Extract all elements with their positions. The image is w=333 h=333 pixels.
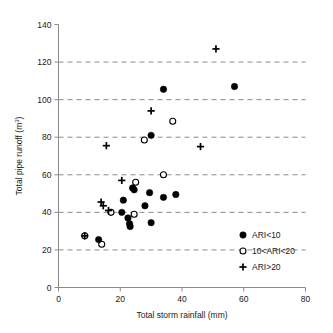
data-point-plus — [212, 45, 219, 52]
y-tick-label: 120 — [37, 57, 51, 67]
legend-label-1: 10<ARI<20 — [252, 246, 295, 256]
data-point-plus — [103, 142, 110, 149]
data-point-filled-circle — [231, 83, 237, 89]
legend-marker-filled-circle — [240, 232, 246, 238]
x-tick-label: 60 — [239, 294, 249, 304]
data-point-open-circle — [170, 118, 176, 124]
legend-item-2[interactable]: ARI>20 — [239, 262, 280, 272]
data-point-filled-circle — [142, 203, 148, 209]
legend-label-2: ARI>20 — [252, 262, 281, 272]
legend-label-0: ARI<10 — [252, 230, 281, 240]
data-point-filled-circle — [173, 191, 179, 197]
y-tick-label: 100 — [37, 95, 51, 105]
y-axis-title-suffix: ) — [14, 116, 24, 119]
legend-item-0[interactable]: ARI<10 — [240, 230, 281, 240]
data-point-filled-circle — [120, 197, 126, 203]
x-tick-label: 40 — [177, 294, 187, 304]
legend-item-1[interactable]: 10<ARI<20 — [240, 246, 295, 256]
data-point-plus — [197, 143, 204, 150]
data-point-plus — [118, 177, 125, 184]
series-plus — [81, 45, 219, 239]
y-tick-label: 20 — [42, 245, 52, 255]
data-point-open-circle — [160, 172, 166, 178]
series-filled-circle — [95, 83, 237, 243]
chart-legend: ARI<1010<ARI<20ARI>20 — [239, 230, 295, 272]
y-tick-label: 140 — [37, 20, 51, 30]
chart-canvas: 020406080100120140020406080Total storm r… — [0, 0, 333, 333]
x-tick-label: 80 — [301, 294, 311, 304]
data-point-open-circle — [133, 179, 139, 185]
y-tick-label: 80 — [42, 132, 52, 142]
y-axis-title-text: Total pipe runoff (m3) — [14, 116, 24, 195]
scatter-chart-figure: 020406080100120140020406080Total storm r… — [0, 0, 333, 333]
data-point-filled-circle — [160, 86, 166, 92]
data-point-filled-circle — [119, 209, 125, 215]
data-point-filled-circle — [127, 223, 133, 229]
x-tick-label: 0 — [56, 294, 61, 304]
data-point-filled-circle — [160, 194, 166, 200]
data-point-filled-circle — [95, 236, 101, 242]
y-axis-title: Total pipe runoff (m3) — [14, 116, 24, 195]
y-axis-title-main: Total pipe runoff (m — [14, 123, 24, 196]
data-point-filled-circle — [131, 187, 137, 193]
y-tick-label: 0 — [47, 283, 52, 293]
data-point-plus — [148, 107, 155, 114]
data-point-open-circle — [131, 211, 137, 217]
data-point-plus — [81, 232, 88, 239]
legend-marker-plus — [239, 263, 246, 270]
y-tick-label: 60 — [42, 170, 52, 180]
data-point-filled-circle — [148, 219, 154, 225]
x-tick-label: 20 — [116, 294, 126, 304]
x-axis-title: Total storm rainfall (mm) — [136, 310, 227, 320]
data-point-filled-circle — [148, 132, 154, 138]
data-point-filled-circle — [146, 189, 152, 195]
data-point-open-circle — [141, 137, 147, 143]
legend-marker-open-circle — [240, 248, 246, 254]
y-tick-label: 40 — [42, 207, 52, 217]
